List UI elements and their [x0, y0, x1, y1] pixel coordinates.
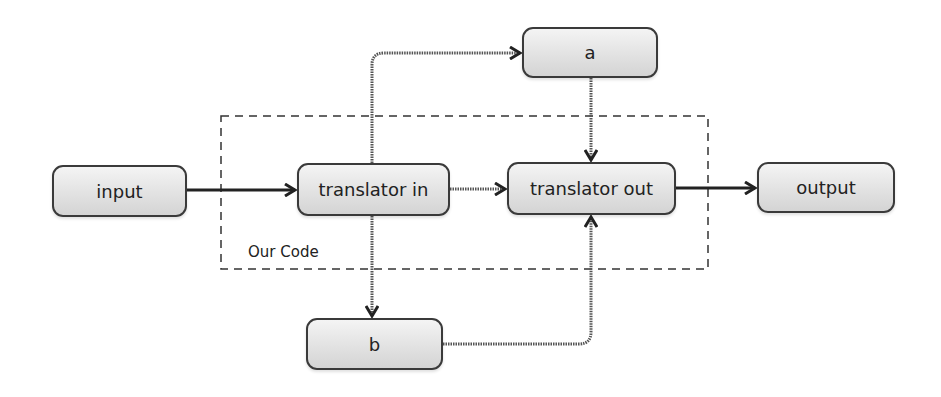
- node-input-label: input: [96, 181, 142, 202]
- diagram-canvas: input translator in translator out outpu…: [0, 0, 941, 397]
- node-a-label: a: [584, 42, 595, 63]
- node-output-label: output: [796, 177, 855, 198]
- node-b: b: [306, 318, 443, 370]
- node-translator-in-label: translator in: [319, 179, 429, 200]
- node-input: input: [52, 165, 187, 217]
- edge-b-to-translator-out: [443, 217, 591, 344]
- node-translator-in: translator in: [297, 163, 450, 216]
- node-b-label: b: [369, 334, 380, 355]
- node-a: a: [522, 27, 658, 78]
- node-translator-out: translator out: [507, 162, 676, 215]
- node-output: output: [757, 162, 895, 213]
- group-label-our-code: Our Code: [248, 243, 319, 261]
- node-translator-out-label: translator out: [530, 178, 653, 199]
- edge-translator-in-to-a: [372, 53, 520, 163]
